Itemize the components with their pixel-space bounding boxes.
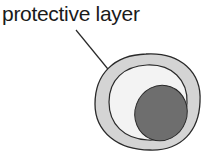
leader-line	[76, 30, 112, 74]
cell-diagram	[0, 0, 209, 167]
